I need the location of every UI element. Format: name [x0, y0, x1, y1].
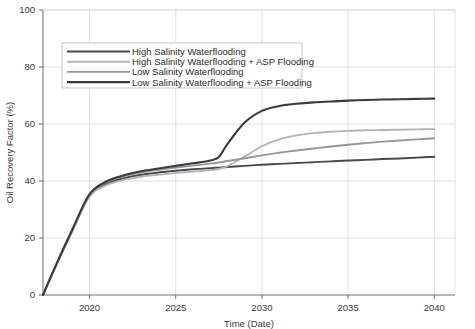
- series-line-3: [43, 99, 434, 295]
- ytick-label-0: 0: [30, 289, 35, 300]
- series-line-0: [43, 157, 434, 295]
- ytick-label-80: 80: [24, 61, 35, 72]
- xtick-label-2020: 2020: [79, 302, 100, 313]
- chart-legend: High Salinity WaterfloodingHigh Salinity…: [62, 43, 314, 88]
- xtick-label-2030: 2030: [251, 302, 272, 313]
- xtick-label-2025: 2025: [165, 302, 186, 313]
- oil-recovery-chart: 02040608010020202025203020352040 Time (D…: [0, 0, 475, 329]
- data-series: [43, 99, 434, 295]
- ytick-label-60: 60: [24, 118, 35, 129]
- xtick-label-2035: 2035: [338, 302, 359, 313]
- chart-svg: 02040608010020202025203020352040 Time (D…: [0, 0, 475, 329]
- y-axis-title: Oil Recovery Factor (%): [4, 102, 15, 203]
- series-line-2: [43, 138, 434, 295]
- ytick-label-20: 20: [24, 232, 35, 243]
- ytick-label-100: 100: [19, 4, 35, 15]
- series-line-1: [43, 129, 434, 295]
- ytick-label-40: 40: [24, 175, 35, 186]
- x-axis-title: Time (Date): [224, 318, 274, 329]
- legend-label-3: Low Salinity Waterflooding + ASP Floodin…: [132, 77, 312, 88]
- xtick-label-2040: 2040: [424, 302, 445, 313]
